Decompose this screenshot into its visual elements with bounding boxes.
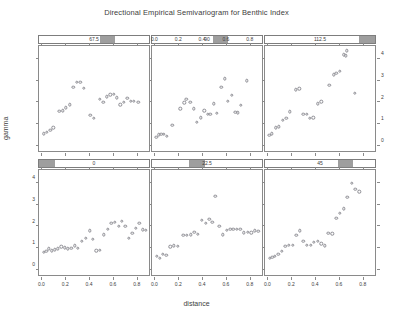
axis-tick xyxy=(291,277,292,280)
x-tick-label: 0.8 xyxy=(246,281,253,287)
x-tick-label: 0.8 xyxy=(359,281,366,287)
axis-tick xyxy=(89,153,90,156)
y-tick-label: 1 xyxy=(381,115,384,121)
axis-tick xyxy=(65,167,66,170)
data-point xyxy=(281,118,284,121)
x-axis-label: distance xyxy=(0,300,393,307)
data-point xyxy=(165,134,168,137)
data-point xyxy=(328,83,331,86)
data-point xyxy=(119,103,122,106)
plot-region: 0.00.20.40.60.8 xyxy=(151,169,263,276)
axis-tick xyxy=(41,153,42,156)
data-point xyxy=(220,86,223,89)
data-point xyxy=(270,132,273,135)
axis-tick xyxy=(377,182,380,183)
axis-tick xyxy=(202,153,203,156)
data-point xyxy=(158,257,161,260)
axis-tick xyxy=(291,167,292,170)
y-tick-label: 3 xyxy=(381,72,384,78)
data-point xyxy=(80,239,83,242)
axis-tick xyxy=(149,101,152,102)
data-point xyxy=(311,116,314,119)
x-tick-label: 0.6 xyxy=(335,281,342,287)
data-point xyxy=(204,222,207,225)
data-point xyxy=(76,246,79,249)
x-tick-label: 0.6 xyxy=(222,36,229,42)
panel-row-top: 67.5900.00.20.40.60.8112.501234 xyxy=(38,35,376,152)
axis-tick xyxy=(89,167,90,170)
axis-tick xyxy=(363,277,364,280)
axis-tick xyxy=(149,145,152,146)
data-point xyxy=(327,232,330,235)
data-point xyxy=(212,102,215,105)
data-point xyxy=(305,112,308,115)
data-point xyxy=(84,237,87,240)
axis-tick xyxy=(65,43,66,46)
axis-tick xyxy=(315,43,316,46)
axis-tick xyxy=(89,277,90,280)
data-point xyxy=(48,129,51,132)
axis-tick xyxy=(339,277,340,280)
plot-region: 0.00.20.40.60.8 xyxy=(151,45,263,152)
data-point xyxy=(106,227,109,230)
axis-tick xyxy=(41,167,42,170)
axis-tick xyxy=(262,145,265,146)
y-axis-label: gamma xyxy=(2,117,9,140)
axis-tick xyxy=(262,101,265,102)
data-point xyxy=(239,103,242,106)
y-axis-ticks-left: 01234 xyxy=(25,170,39,277)
axis-tick xyxy=(154,153,155,156)
plot-region: 01234 xyxy=(264,45,376,152)
x-axis-ticks-top xyxy=(39,158,151,170)
data-point xyxy=(189,233,192,236)
data-point xyxy=(209,113,212,116)
data-point xyxy=(353,92,356,95)
data-point xyxy=(185,98,188,101)
axis-tick xyxy=(154,167,155,170)
y-tick-label: 4 xyxy=(32,174,35,180)
axis-tick xyxy=(178,153,179,156)
axis-tick xyxy=(262,123,265,124)
axis-tick xyxy=(149,225,152,226)
panel-67-5: 67.5 xyxy=(38,35,150,152)
axis-tick xyxy=(267,43,268,46)
x-axis-ticks-top xyxy=(39,34,151,46)
axis-tick xyxy=(149,80,152,81)
axis-tick xyxy=(65,153,66,156)
data-point xyxy=(192,107,195,110)
x-axis-ticks-top xyxy=(265,34,377,46)
data-point xyxy=(238,228,241,231)
data-point xyxy=(214,194,217,197)
data-point xyxy=(178,107,181,110)
axis-tick xyxy=(291,43,292,46)
data-point xyxy=(211,221,214,224)
y-tick-label: 4 xyxy=(381,50,384,56)
data-point xyxy=(171,124,174,127)
data-point xyxy=(61,109,64,112)
data-point xyxy=(165,253,168,256)
axis-tick xyxy=(202,43,203,46)
axis-tick xyxy=(315,153,316,156)
data-point xyxy=(98,248,101,251)
y-tick-label: 0 xyxy=(381,137,384,143)
panel-90: 900.00.20.40.60.8 xyxy=(151,35,263,152)
data-point xyxy=(221,233,224,236)
plot-region: 0.00.20.40.60.801234 xyxy=(38,169,150,276)
axis-tick xyxy=(149,182,152,183)
data-point xyxy=(130,232,133,235)
data-point xyxy=(88,229,91,232)
axis-tick xyxy=(377,204,380,205)
data-point xyxy=(69,247,72,250)
data-point xyxy=(236,111,239,114)
axis-tick xyxy=(377,225,380,226)
x-axis-ticks-top xyxy=(265,158,377,170)
axis-tick xyxy=(36,80,39,81)
x-axis-ticks-bot: 0.00.20.40.60.8 xyxy=(39,277,151,289)
y-axis-ticks-left xyxy=(25,46,39,153)
x-tick-label: 0.0 xyxy=(264,281,271,287)
axis-tick xyxy=(36,123,39,124)
axis-tick xyxy=(36,225,39,226)
axis-tick xyxy=(137,153,138,156)
axis-tick xyxy=(363,167,364,170)
y-axis-ticks-right: 01234 xyxy=(377,46,391,153)
